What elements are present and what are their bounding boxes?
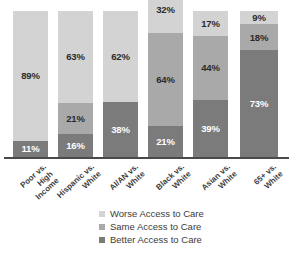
segment-value-label: 44% xyxy=(201,63,219,73)
segment-value-label: 17% xyxy=(201,19,219,29)
bar-segment: 38% xyxy=(103,102,138,157)
segment-value-label: 21% xyxy=(66,114,84,124)
segment-value-label: 39% xyxy=(201,124,219,134)
segment-value-label: 38% xyxy=(111,125,129,135)
segment-value-label: 62% xyxy=(111,52,129,62)
bar-6: 9%18%73% xyxy=(240,11,278,157)
bar-segment: 11% xyxy=(13,141,48,157)
segment-value-label: 21% xyxy=(156,137,174,147)
segment-value-label: 16% xyxy=(66,141,84,151)
segment-value-label: 73% xyxy=(250,99,268,109)
segment-value-label: 63% xyxy=(66,52,84,62)
bar-4: 32%64%21% xyxy=(148,0,183,157)
bar-2: 63%21%16% xyxy=(58,11,93,157)
bar-segment: 44% xyxy=(193,36,228,100)
legend-label: Better Access to Care xyxy=(110,235,202,245)
segment-value-label: 64% xyxy=(156,75,174,85)
legend-item-2[interactable]: Same Access to Care xyxy=(99,220,259,233)
bar-3: 62%38% xyxy=(103,11,138,157)
bar-segment: 21% xyxy=(58,103,93,134)
legend-item-3[interactable]: Better Access to Care xyxy=(99,233,259,246)
bar-segment: 17% xyxy=(193,11,228,36)
bar-segment: 18% xyxy=(240,24,278,50)
segment-value-label: 89% xyxy=(21,71,39,81)
bar-segment: 62% xyxy=(103,11,138,102)
legend-label: Worse Access to Care xyxy=(110,209,204,219)
chart-legend: Worse Access to CareSame Access to CareB… xyxy=(99,207,259,246)
bar-segment: 32% xyxy=(148,0,183,33)
bar-1: 89%11% xyxy=(13,11,48,157)
legend-swatch-icon xyxy=(99,224,105,230)
bar-segment: 21% xyxy=(148,126,183,157)
legend-swatch-icon xyxy=(99,211,105,217)
bar-segment: 73% xyxy=(240,50,278,157)
bar-segment: 63% xyxy=(58,11,93,103)
segment-value-label: 18% xyxy=(250,33,268,43)
legend-item-1[interactable]: Worse Access to Care xyxy=(99,207,259,220)
bar-segment: 16% xyxy=(58,134,93,157)
stacked-bar-chart: 89%11%63%21%16%62%38%32%64%21%17%44%39%9… xyxy=(0,0,293,254)
legend-swatch-icon xyxy=(99,237,105,243)
plot-area: 89%11%63%21%16%62%38%32%64%21%17%44%39%9… xyxy=(0,0,293,158)
bar-segment: 64% xyxy=(148,33,183,126)
bar-segment: 39% xyxy=(193,100,228,157)
bar-segment: 9% xyxy=(240,11,278,24)
segment-value-label: 11% xyxy=(22,144,40,154)
segment-value-label: 9% xyxy=(252,13,265,23)
bar-5: 17%44%39% xyxy=(193,11,228,157)
x-axis-labels: Poor vs.HighIncomeHispanic vs.WhiteAI/AN… xyxy=(0,158,293,208)
bar-segment: 89% xyxy=(13,11,48,141)
segment-value-label: 32% xyxy=(156,5,174,15)
legend-label: Same Access to Care xyxy=(110,222,201,232)
